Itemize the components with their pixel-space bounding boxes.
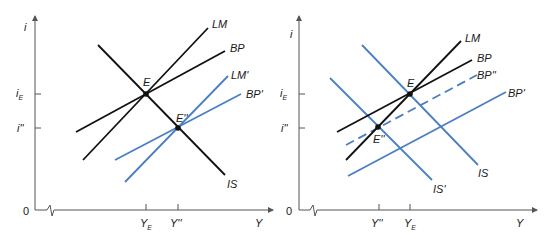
- left-label-IS: IS: [227, 178, 238, 190]
- is-lm-bp-diagram: i iE i'' 0 YE Y'' Y LM BP LM' BP' IS E E…: [0, 0, 557, 239]
- left-point-Epp: [175, 125, 181, 131]
- right-panel: i iE i'' 0 Y'' YE Y LM BP BP'' BP' IS IS…: [280, 16, 537, 231]
- right-tick-label-YE: YE: [404, 217, 416, 231]
- left-label-LM: LM: [212, 18, 228, 30]
- left-tick-label-ipp: i'': [17, 122, 25, 134]
- right-curve-IS-prime: [330, 78, 432, 180]
- right-label-IS-prime: IS': [433, 183, 446, 195]
- right-curve-LM: [346, 41, 461, 160]
- left-label-LM-prime: LM': [231, 69, 249, 81]
- right-tick-label-ipp: i'': [281, 122, 289, 134]
- left-tick-label-Ypp: Y'': [170, 217, 182, 229]
- right-tick-label-Ypp: Y'': [371, 217, 383, 229]
- right-tick-label-iE: iE: [280, 87, 287, 101]
- right-label-BP: BP: [477, 52, 492, 64]
- left-curve-BP: [76, 51, 225, 132]
- right-x-axis: [299, 205, 537, 216]
- left-label-BP: BP: [230, 42, 245, 54]
- right-label-Epp: E'': [373, 133, 385, 145]
- right-origin-label: 0: [286, 205, 292, 217]
- left-label-E: E: [143, 76, 151, 88]
- left-tick-label-iE: iE: [16, 87, 23, 101]
- right-point-Epp: [375, 124, 381, 130]
- left-tick-label-YE: YE: [140, 217, 152, 231]
- left-label-BP-prime: BP': [246, 88, 264, 100]
- left-point-E: [143, 91, 149, 97]
- right-label-BP-double-prime: BP'': [477, 69, 497, 81]
- right-y-axis-label: i: [290, 28, 293, 40]
- right-label-BP-prime: BP': [508, 87, 526, 99]
- right-label-IS: IS: [478, 167, 489, 179]
- left-x-axis: [35, 205, 273, 216]
- left-label-Epp: E'': [176, 112, 188, 124]
- left-x-axis-label: Y: [255, 217, 263, 229]
- left-panel: i iE i'' 0 YE Y'' Y LM BP LM' BP' IS E E…: [16, 16, 273, 231]
- right-point-E: [407, 91, 413, 97]
- left-origin-label: 0: [23, 205, 29, 217]
- right-label-LM: LM: [465, 32, 481, 44]
- left-y-axis-label: i: [24, 21, 27, 33]
- right-x-axis-label: Y: [516, 217, 524, 229]
- right-label-E: E: [407, 77, 415, 89]
